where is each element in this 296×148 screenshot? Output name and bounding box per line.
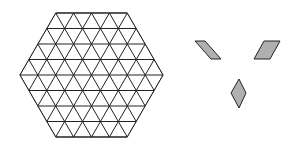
rhombus-bottom — [231, 79, 246, 108]
rhombus-right — [254, 41, 280, 59]
rhombus-left — [195, 41, 221, 59]
diagram-canvas — [0, 0, 296, 148]
hexagon-triangle-grid — [0, 0, 296, 148]
